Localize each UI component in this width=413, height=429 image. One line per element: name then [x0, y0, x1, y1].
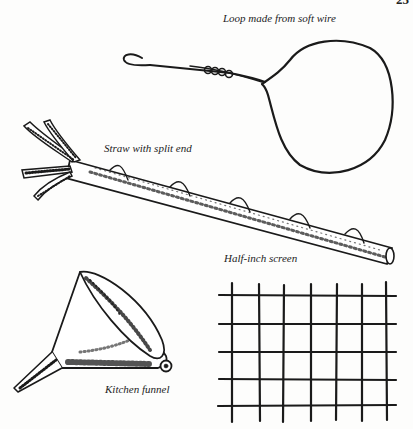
- caption-kitchen-funnel: Kitchen funnel: [105, 383, 169, 395]
- kitchen-funnel-illustration: [14, 272, 172, 392]
- caption-split-straw: Straw with split end: [104, 142, 192, 154]
- illustrations-canvas: [0, 0, 413, 429]
- caption-half-inch-screen: Half-inch screen: [224, 252, 297, 264]
- half-inch-screen-illustration: [218, 282, 396, 422]
- split-straw-illustration: [22, 120, 394, 264]
- book-page: 25: [0, 0, 413, 429]
- caption-wire-loop: Loop made from soft wire: [223, 12, 336, 24]
